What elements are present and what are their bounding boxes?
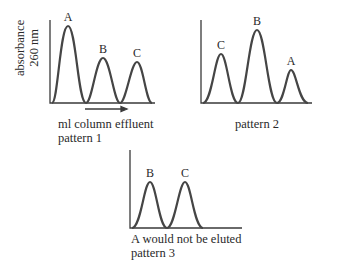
peak-label-a: A (287, 54, 296, 69)
pattern1-axes (50, 20, 155, 103)
peak-label-c: C (133, 46, 141, 61)
pattern3-curve (132, 182, 203, 228)
y-axis-label-line2: 260 nm (27, 20, 41, 76)
y-axis-label-line1: absorbance (13, 20, 27, 76)
peak-label-c: C (181, 166, 189, 181)
peak-label-b: B (146, 166, 154, 181)
peak-label-b: B (253, 14, 261, 29)
peak-label-a: A (64, 10, 73, 25)
chromatogram-figure (0, 0, 337, 268)
pattern3-caption: pattern 3 (131, 246, 175, 260)
peak-label-b: B (99, 42, 107, 57)
pattern3-note: A would not be eluted (131, 232, 241, 246)
y-axis-label: absorbance 260 nm (13, 20, 41, 76)
pattern1-caption: pattern 1 (58, 131, 102, 145)
x-axis-label: ml column effluent (58, 117, 154, 131)
peak-label-c: C (217, 38, 225, 53)
pattern1-curve (52, 26, 152, 103)
pattern2-caption: pattern 2 (235, 117, 279, 131)
